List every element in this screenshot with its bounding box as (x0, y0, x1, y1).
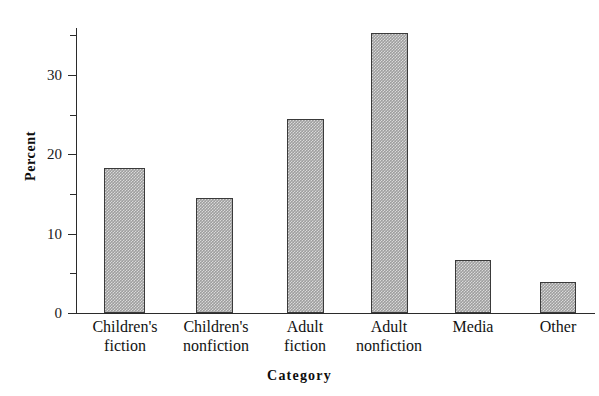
y-minor-tick-25 (70, 115, 77, 116)
x-axis-title: Category (0, 368, 599, 384)
bar-chart-figure: Percent 0 10 20 30 Children's fiction Ch… (0, 0, 599, 396)
bar-media (455, 260, 491, 313)
y-tick-30 (68, 75, 77, 76)
bar-other (540, 282, 576, 313)
bar-adult-fiction (287, 119, 324, 313)
x-axis-line (74, 313, 595, 314)
bar-adult-nonfiction (371, 33, 408, 313)
y-tick-0 (68, 313, 77, 314)
y-tick-label-0: 0 (24, 306, 62, 320)
bar-childrens-nonfiction (196, 198, 233, 313)
x-category-label-5-line1: Other (498, 317, 599, 336)
x-category-label-5: Other (498, 317, 599, 336)
y-tick-label-20: 20 (24, 147, 62, 161)
y-minor-tick-35 (70, 35, 77, 36)
y-minor-tick-15 (70, 194, 77, 195)
y-tick-label-30: 30 (24, 68, 62, 82)
y-minor-tick-5 (70, 273, 77, 274)
x-category-label-3-line2: nonfiction (329, 336, 449, 355)
y-tick-20 (68, 154, 77, 155)
bar-childrens-fiction (104, 168, 145, 313)
y-tick-10 (68, 234, 77, 235)
y-tick-label-10: 10 (24, 227, 62, 241)
y-axis-line (76, 28, 77, 314)
